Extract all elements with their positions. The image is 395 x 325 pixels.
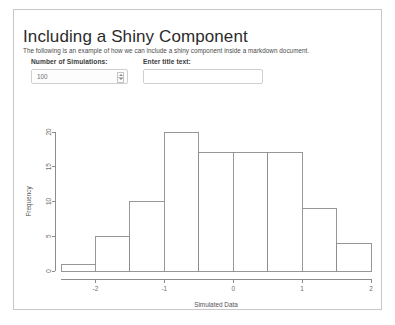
x-axis-tick-label: 0	[231, 285, 235, 292]
controls-row: Number of Simulations: 100 Enter title t…	[14, 58, 381, 102]
simulations-value: 100	[37, 73, 48, 80]
y-axis-tick-label: 10	[45, 198, 52, 206]
histogram-bar	[268, 153, 302, 271]
y-axis-tick-label: 5	[45, 234, 52, 238]
page-subtitle: The following is an example of how we ca…	[23, 47, 309, 54]
x-axis-title: Simulated Data	[194, 301, 238, 308]
x-axis-tick-label: 2	[369, 285, 373, 292]
simulations-label: Number of Simulations:	[31, 58, 128, 65]
histogram-plot: 05101520 -2-1012 Simulated Data Frequenc…	[14, 110, 382, 310]
histogram-svg: 05101520 -2-1012 Simulated Data Frequenc…	[14, 110, 382, 310]
histogram-bar	[164, 132, 198, 271]
y-axis-title: Frequency	[25, 186, 33, 217]
histogram-bar	[233, 153, 267, 271]
caret-down-icon[interactable]	[119, 78, 123, 80]
caret-up-icon[interactable]	[119, 74, 123, 76]
y-axis-tick-label: 20	[45, 128, 52, 136]
number-stepper[interactable]	[117, 72, 124, 83]
title-text-input[interactable]	[143, 69, 263, 84]
x-axis-tick-label: 1	[300, 285, 304, 292]
title-text-label: Enter title text:	[143, 58, 263, 65]
y-axis-tick-label: 0	[45, 269, 52, 273]
number-of-simulations-input[interactable]: 100	[31, 69, 128, 84]
histogram-bars	[61, 132, 371, 271]
y-axis-ticks: 05101520	[45, 128, 56, 273]
page-title: Including a Shiny Component	[23, 27, 248, 47]
y-axis-tick-label: 15	[45, 163, 52, 171]
x-axis-tick-label: -1	[161, 285, 167, 292]
histogram-bar	[61, 264, 95, 271]
histogram-bar	[302, 208, 336, 271]
histogram-bar	[130, 202, 164, 272]
histogram-bar	[337, 243, 371, 271]
x-axis-tick-label: -2	[93, 285, 99, 292]
x-axis-ticks: -2-1012	[93, 279, 374, 292]
histogram-bar	[95, 236, 129, 271]
histogram-bar	[199, 153, 233, 271]
document-panel: Including a Shiny Component The followin…	[13, 9, 382, 310]
title-text-field-group: Enter title text:	[143, 58, 263, 84]
simulations-field-group: Number of Simulations: 100	[31, 58, 128, 84]
